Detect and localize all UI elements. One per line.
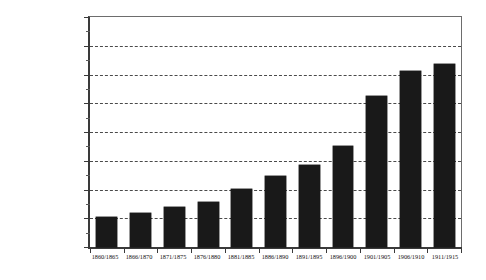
plot-area: 05.000.00010.000.00015.000.00020.000.000…	[88, 16, 462, 249]
bar	[130, 213, 151, 247]
bar-slot	[225, 17, 259, 247]
bar-chart: 05.000.00010.000.00015.000.00020.000.000…	[0, 0, 486, 280]
bar-series	[90, 17, 461, 247]
bar-slot	[360, 17, 394, 247]
bar	[198, 202, 219, 247]
bar	[299, 165, 320, 247]
bar-slot	[90, 17, 124, 247]
x-axis-tick-label: 1886/1890	[258, 253, 293, 260]
x-axis-tick-label: 1901/1905	[360, 253, 395, 260]
bar	[231, 189, 252, 247]
bar-slot	[292, 17, 326, 247]
bar	[96, 217, 117, 247]
x-axis-tick-label: 1860/1865	[88, 253, 123, 260]
bar-slot	[157, 17, 191, 247]
bar	[164, 207, 185, 247]
x-axis-tick-label: 1871/1875	[156, 253, 191, 260]
x-axis-tick-label: 1891/1895	[292, 253, 327, 260]
bar	[366, 96, 387, 247]
x-axis-tick-label: 1896/1900	[326, 253, 361, 260]
x-axis-tick-label: 1906/1910	[394, 253, 429, 260]
x-axis-tick-label: 1866/1870	[122, 253, 157, 260]
x-axis-tick-label: 1911/1915	[428, 253, 463, 260]
bar-slot	[259, 17, 293, 247]
bar-slot	[191, 17, 225, 247]
bar	[265, 176, 286, 247]
bar-slot	[427, 17, 461, 247]
bar	[333, 146, 354, 247]
bar	[400, 71, 421, 247]
bar-slot	[124, 17, 158, 247]
x-axis-labels: 1860/18651866/18701871/18751876/18801881…	[88, 253, 462, 260]
x-axis-tick-label: 1881/1885	[224, 253, 259, 260]
bar	[434, 64, 455, 247]
x-axis-tick-label: 1876/1880	[190, 253, 225, 260]
bar-slot	[394, 17, 428, 247]
bar-slot	[326, 17, 360, 247]
